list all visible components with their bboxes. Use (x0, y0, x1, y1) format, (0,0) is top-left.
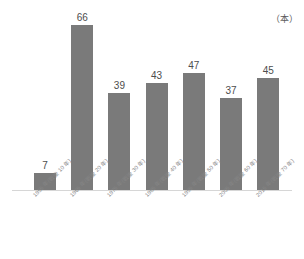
bar-value-label: 47 (174, 60, 214, 71)
bar-value-label: 39 (99, 80, 139, 91)
bar-value-label: 43 (137, 70, 177, 81)
bar-group: 66 (71, 25, 93, 190)
bar-value-label: 37 (211, 85, 251, 96)
bar (71, 25, 93, 190)
bar-value-label: 45 (248, 65, 288, 76)
bar-chart: （本） 7663943473745 1955 年(戦後 10 年)1965 年(… (0, 0, 304, 259)
bar-value-label: 66 (62, 12, 102, 23)
x-axis-labels: 1955 年(戦後 10 年)1965 年(戦後 20 年)1975 年(戦後 … (0, 191, 304, 259)
